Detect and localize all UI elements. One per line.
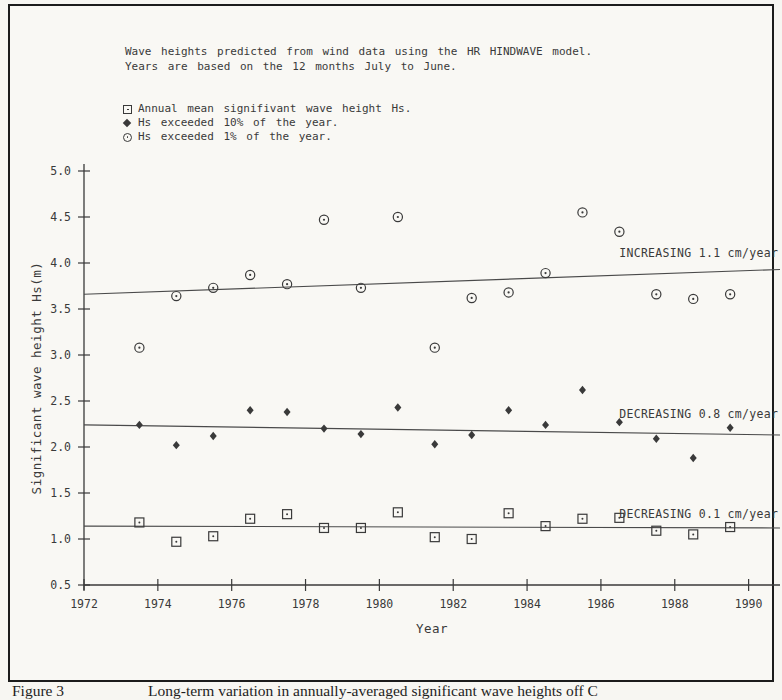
x-tick-label: 1980 [366,597,394,611]
square-dot-center [138,521,140,523]
square-dot-center [212,535,214,537]
circle-dot-center [360,287,362,289]
diamond-point [173,441,180,449]
circle-dot-center [581,211,583,213]
square-dot-center [545,525,547,527]
square-dot-center [471,538,473,540]
diamond-point [727,423,734,431]
y-tick-label: 1.0 [50,532,71,546]
x-tick-label: 1986 [587,597,615,611]
x-tick-label: 1972 [70,597,98,611]
circle-dot-center [175,295,177,297]
circle-dot-center [618,231,620,233]
circle-dot-center [397,216,399,218]
y-tick-label: 3.5 [50,302,71,316]
circle-dot-center [508,291,510,293]
diamond-point [542,421,549,429]
circle-dot-center [655,293,657,295]
y-tick-label: 4.0 [50,256,71,270]
y-tick-label: 2.0 [50,440,71,454]
diamond-point [136,421,143,429]
x-tick-label: 1988 [661,597,689,611]
circle-dot-center [286,283,288,285]
diamond-point [690,454,697,462]
square-dot-center [323,527,325,529]
diamond-point [505,406,512,414]
diamond-point [284,408,291,416]
circle-dot-center [544,272,546,274]
y-tick-label: 4.5 [50,210,71,224]
trend-line-label: INCREASING 1.1 cm/year [619,246,778,260]
y-axis-title: Significant wave height Hs(m) [29,262,44,495]
diamond-point [579,386,586,394]
square-dot-center [360,527,362,529]
circle-dot-center [729,293,731,295]
circle-dot-center [471,297,473,299]
trend-line-label: DECREASING 0.1 cm/year [619,507,778,521]
trend-line [84,269,780,294]
figure-frame: Wave heights predicted from wind data us… [8,4,774,682]
trend-line [84,526,780,528]
diamond-point [210,432,217,440]
square-dot-center [249,518,251,520]
y-tick-label: 0.5 [50,578,71,592]
square-dot-center [692,533,694,535]
square-dot-center [618,517,620,519]
caption-figure-number: Figure 3 [12,682,64,700]
x-tick-label: 1976 [218,597,246,611]
square-dot-center [397,511,399,513]
x-axis-title: Year [416,621,448,636]
x-tick-label: 1982 [439,597,467,611]
y-tick-label: 1.5 [50,486,71,500]
x-tick-label: 1984 [513,597,541,611]
diamond-point [357,430,364,438]
x-tick-label: 1990 [735,597,763,611]
square-dot-center [508,512,510,514]
square-dot-center [655,530,657,532]
circle-dot-center [692,298,694,300]
square-dot-center [286,513,288,515]
y-tick-label: 3.0 [50,348,71,362]
trend-line [84,425,780,435]
circle-dot-center [138,347,140,349]
x-tick-label: 1978 [292,597,320,611]
caption-text: Long-term variation in annually-averaged… [148,682,598,700]
circle-dot-center [434,347,436,349]
square-dot-center [581,518,583,520]
square-dot-center [729,526,731,528]
y-tick-label: 2.5 [50,394,71,408]
x-tick-label: 1974 [144,597,172,611]
diamond-point [321,424,328,432]
square-dot-center [175,541,177,543]
diamond-point [431,440,438,448]
diamond-point [653,435,660,443]
diamond-point [394,403,401,411]
diamond-point [247,406,254,414]
diamond-point [468,431,475,439]
circle-dot-center [249,274,251,276]
y-tick-label: 5.0 [50,164,71,178]
circle-dot-center [323,219,325,221]
trend-line-label: DECREASING 0.8 cm/year [619,407,778,421]
square-dot-center [434,536,436,538]
circle-dot-center [212,287,214,289]
scatter-plot: 0.51.01.52.02.53.03.54.04.55.01972197419… [10,6,782,684]
